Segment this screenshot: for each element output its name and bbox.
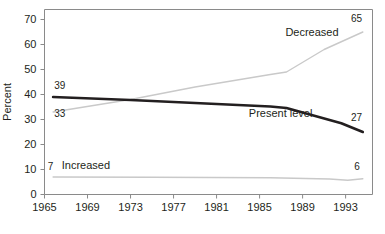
x-tick-label: 1981 (204, 201, 228, 213)
x-tick-label: 1973 (118, 201, 142, 213)
decreased-end-value: 65 (351, 13, 363, 24)
chart-canvas: 010203040506070 196519691973197719811985… (0, 0, 385, 234)
line-chart: 010203040506070 196519691973197719811985… (0, 0, 385, 234)
series-label-present-level: Present level (249, 107, 313, 119)
series-label-increased: Increased (62, 159, 110, 171)
y-axis-title-group: Percent (1, 83, 13, 121)
y-tick-label: 60 (24, 38, 36, 50)
x-tick-label: 1977 (161, 201, 185, 213)
series-line-increased (53, 177, 363, 180)
x-tick-label: 1965 (32, 201, 56, 213)
x-tick-label: 1985 (247, 201, 271, 213)
decreased-start-value: 33 (54, 108, 66, 119)
x-tick-label: 1993 (333, 201, 357, 213)
x-tick-label: 1989 (290, 201, 314, 213)
increased-end-value: 6 (354, 161, 360, 172)
y-tick-label: 30 (24, 113, 36, 125)
y-tick-label: 20 (24, 138, 36, 150)
present-end-value: 27 (351, 112, 363, 123)
y-axis-ticks: 010203040506070 (24, 13, 44, 200)
y-tick-label: 50 (24, 63, 36, 75)
data-series (53, 32, 363, 180)
series-line-present-level (53, 97, 363, 132)
y-tick-label: 10 (24, 163, 36, 175)
series-label-decreased: Decreased (285, 26, 338, 38)
y-tick-label: 0 (30, 188, 36, 200)
x-tick-label: 1969 (75, 201, 99, 213)
x-axis-ticks: 19651969197319771981198519891993 (32, 195, 358, 213)
y-axis-title: Percent (1, 83, 13, 121)
present-start-value: 39 (54, 80, 66, 91)
increased-start-value: 7 (48, 161, 54, 172)
y-tick-label: 70 (24, 13, 36, 25)
y-tick-label: 40 (24, 88, 36, 100)
